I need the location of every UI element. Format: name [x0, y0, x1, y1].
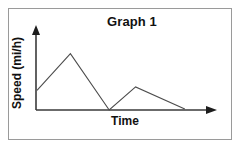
- y-axis-label-container: Speed (mi/h): [0, 30, 34, 116]
- x-axis-arrow-right-icon: [206, 106, 217, 114]
- chart-title: Graph 1: [52, 14, 212, 29]
- speed-time-line: [37, 54, 185, 110]
- x-axis-label: Time: [85, 114, 165, 128]
- graph-figure: Graph 1 Speed (mi/h) Time: [0, 0, 240, 148]
- y-axis-label: Speed (mi/h): [11, 37, 24, 109]
